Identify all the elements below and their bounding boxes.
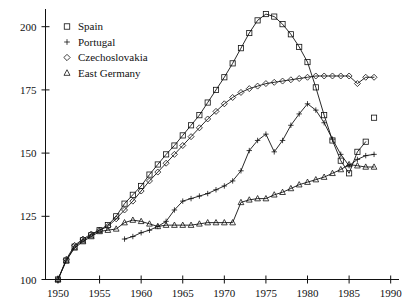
legend: SpainPortugalCzechoslovakiaEast Germany [64,20,148,79]
marker-plus [363,153,368,158]
legend-item-east-germany: East Germany [64,67,141,79]
x-tick-label: 1990 [380,287,403,299]
marker-plus [222,183,227,188]
y-tick-label: 200 [20,21,37,33]
series-east-germany [55,161,377,281]
marker-plus [64,39,70,45]
marker-diamond [64,54,70,60]
plot-area: 100125150175200 195019551960196519701975… [20,9,402,299]
marker-square [64,24,69,29]
marker-triangle [64,70,70,76]
x-tick-label: 1950 [47,287,70,299]
legend-label: Portugal [78,36,115,48]
y-tick-label: 100 [20,274,37,286]
marker-plus [213,187,218,192]
x-tick-label: 1985 [338,287,361,299]
marker-square [371,115,376,120]
axes [46,9,400,280]
y-axis-tick-labels: 100125150175200 [20,21,37,286]
x-tick-label: 1975 [255,287,278,299]
y-tick-label: 125 [20,210,37,222]
series-line [58,76,374,280]
line-chart: 100125150175200 195019551960196519701975… [0,0,407,304]
y-tick-label: 175 [20,84,37,96]
legend-item-czechoslovakia: Czechoslovakia [64,51,148,63]
x-axis-tick-labels: 195019551960196519701975198019851990 [47,287,402,299]
marker-plus [147,228,152,233]
x-tick-label: 1955 [89,287,112,299]
x-tick-label: 1965 [172,287,195,299]
marker-plus [138,230,143,235]
marker-plus [130,234,135,239]
chart-canvas: 100125150175200 195019551960196519701975… [0,0,407,304]
marker-plus [205,191,210,196]
isolated-data-points [371,115,376,120]
series-czechoslovakia [55,73,377,283]
legend-item-spain: Spain [64,20,103,32]
marker-plus [371,152,376,157]
y-tick-label: 150 [20,147,37,159]
marker-plus [188,196,193,201]
legend-label: Czechoslovakia [78,51,148,63]
x-tick-label: 1970 [213,287,236,299]
marker-plus [122,236,127,241]
x-tick-label: 1960 [130,287,153,299]
legend-item-portugal: Portugal [64,36,115,48]
x-tick-label: 1980 [297,287,320,299]
series-line [58,164,374,279]
marker-plus [197,193,202,198]
legend-label: Spain [78,20,104,32]
legend-label: East Germany [78,67,141,79]
marker-plus [330,136,335,141]
